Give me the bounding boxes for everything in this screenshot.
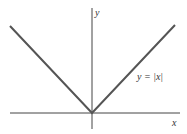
y-axis-label: y xyxy=(94,7,100,18)
plot-area: y x y = |x| xyxy=(0,0,187,134)
abs-value-graph: y x y = |x| xyxy=(0,0,187,134)
curve-label: y = |x| xyxy=(136,71,163,82)
x-axis-label: x xyxy=(171,117,177,128)
